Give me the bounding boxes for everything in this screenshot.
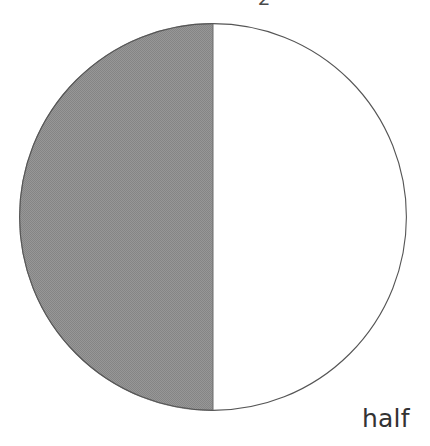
circle-svg: [19, 23, 407, 411]
top-label-clip: 2: [236, 0, 292, 11]
shaded-half-slice: [19, 23, 213, 411]
bottom-right-label: half: [362, 404, 410, 434]
half-shaded-circle-diagram: [19, 23, 407, 411]
top-label: 2: [236, 0, 292, 10]
figure-root: 2 half: [0, 0, 430, 446]
unshaded-half-slice: [213, 23, 407, 411]
